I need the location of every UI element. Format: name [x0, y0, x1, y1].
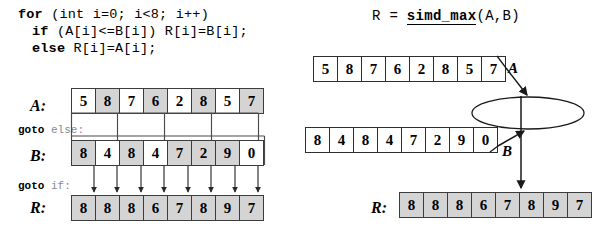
array-b-left-cell-3: 4 — [144, 141, 168, 166]
array-r-left-cell-3: 6 — [144, 196, 168, 221]
array-a-left-cell-2: 7 — [120, 89, 144, 114]
array-r-left-cell-7: 7 — [240, 196, 264, 221]
array-a-right-cell-5: 8 — [434, 57, 458, 82]
array-b-left-cell-4: 7 — [168, 141, 192, 166]
code-keyword-else: else — [32, 41, 65, 56]
left-label-b: B: — [30, 147, 46, 165]
array-r-right-cell-1: 8 — [424, 193, 448, 218]
goto-else-label: goto else: — [18, 124, 84, 136]
array-r-right-cell-4: 7 — [496, 193, 520, 218]
code-keyword-for: for — [18, 7, 43, 22]
array-a-right-cell-3: 6 — [386, 57, 410, 82]
array-r-right-cell-2: 8 — [448, 193, 472, 218]
array-a-right: 58762857 — [313, 56, 506, 82]
array-b-left-cell-0: 8 — [72, 141, 96, 166]
table-row: 58762857 — [314, 57, 506, 82]
array-r-left-cell-6: 9 — [216, 196, 240, 221]
array-b-right-cell-1: 4 — [330, 128, 354, 153]
table-row: 84847290 — [72, 141, 264, 166]
array-r-left-cell-4: 7 — [168, 196, 192, 221]
code-line-2-text: (A[i]<=B[i]) R[i]=B[i]; — [49, 24, 248, 39]
array-r-right-cell-6: 9 — [544, 193, 568, 218]
array-b-left-cell-1: 4 — [96, 141, 120, 166]
array-r-left: 88867897 — [71, 195, 264, 221]
array-a-left-cell-6: 5 — [216, 89, 240, 114]
formula-lhs: R = — [372, 8, 407, 24]
array-a-left-cell-5: 8 — [192, 89, 216, 114]
array-a-right-cell-0: 5 — [314, 57, 338, 82]
goto-else-keyword: goto — [18, 124, 44, 136]
table-row: 84847290 — [306, 128, 498, 153]
array-a-left: 58762857 — [71, 88, 264, 114]
array-r-left-cell-1: 8 — [96, 196, 120, 221]
right-label-r: R: — [371, 199, 387, 217]
array-r-right-cell-0: 8 — [400, 193, 424, 218]
array-b-left-cell-7: 0 — [240, 141, 264, 166]
goto-else-target: else: — [51, 124, 84, 136]
array-b-left-cell-6: 9 — [216, 141, 240, 166]
array-r-right: 88867897 — [399, 192, 592, 218]
formula-line: R = simd_max(A,B) — [372, 8, 520, 24]
array-a-right-cell-2: 7 — [362, 57, 386, 82]
array-r-right-cell-5: 8 — [520, 193, 544, 218]
array-a-right-cell-4: 2 — [410, 57, 434, 82]
table-row: 88867897 — [72, 196, 264, 221]
array-a-right-cell-1: 8 — [338, 57, 362, 82]
array-a-right-cell-6: 5 — [458, 57, 482, 82]
array-b-right-cell-2: 8 — [354, 128, 378, 153]
array-b-right-cell-6: 9 — [450, 128, 474, 153]
left-label-r: R: — [30, 199, 46, 217]
code-keyword-if: if — [32, 24, 49, 39]
array-r-left-cell-5: 8 — [192, 196, 216, 221]
code-block: for (int i=0; i<8; i++) if (A[i]<=B[i]) … — [18, 6, 308, 57]
array-b-right-cell-7: 0 — [474, 128, 498, 153]
array-b-left: 84847290 — [71, 140, 264, 166]
array-b-left-cell-5: 2 — [192, 141, 216, 166]
array-a-left-cell-0: 5 — [72, 89, 96, 114]
array-r-left-cell-0: 8 — [72, 196, 96, 221]
array-a-left-cell-7: 7 — [240, 89, 264, 114]
goto-if-target: if: — [51, 180, 71, 192]
table-row: 58762857 — [72, 89, 264, 114]
table-row: 88867897 — [400, 193, 592, 218]
goto-if-label: goto if: — [18, 180, 71, 192]
code-line-3-text: R[i]=A[i]; — [65, 41, 156, 56]
formula-function-name: simd_max — [407, 8, 477, 25]
array-a-left-cell-3: 6 — [144, 89, 168, 114]
formula-args: (A,B) — [476, 8, 520, 24]
array-b-right-cell-4: 7 — [402, 128, 426, 153]
goto-if-keyword: goto — [18, 180, 44, 192]
right-label-b: B — [502, 143, 512, 160]
array-a-left-cell-4: 2 — [168, 89, 192, 114]
code-line-1: for (int i=0; i<8; i++) — [18, 6, 308, 23]
left-label-a: A: — [30, 97, 46, 115]
right-label-a: A — [508, 60, 518, 77]
code-line-3: else R[i]=A[i]; — [18, 40, 308, 57]
operator-label: simd_max — [485, 106, 542, 119]
left-result-arrows — [94, 166, 258, 192]
array-r-left-cell-2: 8 — [120, 196, 144, 221]
array-a-right-cell-7: 7 — [482, 57, 506, 82]
array-r-right-cell-7: 7 — [568, 193, 592, 218]
array-a-left-cell-1: 8 — [96, 89, 120, 114]
array-b-right-cell-0: 8 — [306, 128, 330, 153]
array-b-right-cell-5: 2 — [426, 128, 450, 153]
code-line-1-text: (int i=0; i<8; i++) — [43, 7, 209, 22]
array-b-left-cell-2: 8 — [120, 141, 144, 166]
array-r-right-cell-3: 6 — [472, 193, 496, 218]
array-b-right: 84847290 — [305, 127, 498, 153]
array-b-right-cell-3: 4 — [378, 128, 402, 153]
code-line-2: if (A[i]<=B[i]) R[i]=B[i]; — [18, 23, 308, 40]
